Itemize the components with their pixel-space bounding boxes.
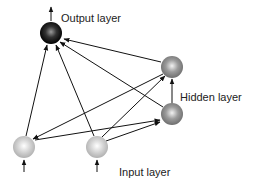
edge-input-left-to-output [26,45,47,136]
input-node-left [13,136,35,158]
edge-hidden-top-to-input-left [33,74,163,139]
nodes [13,22,183,158]
hidden-node-top [161,56,183,78]
output-node [40,22,62,44]
edge-hidden-top-to-output [64,39,161,62]
output-layer-label: Output layer [61,13,121,24]
input-node-mid [86,136,108,158]
edge-input-mid-to-output [56,45,94,136]
hidden-layer-label: Hidden layer [180,92,242,103]
edge-hidden-bottom-to-output [60,42,163,107]
hidden-node-bottom [161,103,183,125]
input-layer-label: Input layer [119,167,170,178]
edge-input-mid-to-hidden-top [102,76,165,137]
